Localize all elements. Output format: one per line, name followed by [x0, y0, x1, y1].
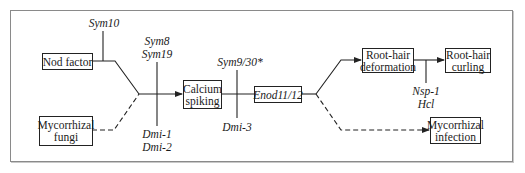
root-hair-curling-label-line2: curling — [452, 61, 485, 73]
sym10-gene-label: Sym10 — [89, 17, 120, 30]
dmi1-text: Dmi-1 — [142, 128, 171, 141]
nsp1-hcl-gene-label: Nsp-1 Hcl — [412, 85, 439, 111]
sym8-sym19-gene-label: Sym8 Sym19 — [142, 35, 173, 61]
calcium-spiking-label-line1: Calcium — [183, 83, 222, 95]
fungi-connector — [92, 94, 139, 130]
sym10-text: Sym10 — [89, 17, 120, 30]
dmi3-text: Dmi-3 — [222, 121, 251, 134]
enod-label: Enod11/12 — [253, 89, 303, 101]
mycorrhizal-fungi-label-line1: Mycorrhizal — [38, 119, 95, 131]
sym19-text: Sym19 — [142, 48, 173, 61]
mycorrhizal-fungi-node: Mycorrhizal fungi — [39, 116, 93, 146]
sym9-30-gene-label: Sym9/30* — [217, 56, 262, 69]
root-hair-deformation-label-line2: deformation — [360, 61, 416, 73]
dmi3-gene-label: Dmi-3 — [222, 121, 251, 134]
root-hair-curling-label-line1: Root-hair — [446, 49, 490, 61]
calcium-spiking-node: Calcium spiking — [183, 80, 222, 109]
branch-to-deformation-arrow — [316, 60, 361, 94]
root-hair-deformation-label-line1: Root-hair — [366, 49, 410, 61]
calcium-spiking-label-line2: spiking — [186, 95, 220, 107]
nod-factor-label: Nod factor — [43, 56, 93, 68]
sym8-text: Sym8 — [142, 35, 173, 48]
nsp1-text: Nsp-1 — [412, 85, 439, 98]
root-hair-deformation-node: Root-hair deformation — [362, 48, 414, 73]
root-hair-curling-node: Root-hair curling — [445, 48, 491, 73]
nod-factor-connector — [92, 61, 139, 94]
sym9-30-text: Sym9/30* — [217, 56, 262, 69]
mycorrhizal-fungi-label-line2: fungi — [54, 131, 78, 143]
mycorrhizal-infection-label-line1: Mycorrhizal — [427, 119, 484, 131]
dmi1-dmi2-gene-label: Dmi-1 Dmi-2 — [142, 128, 171, 154]
enod-node: Enod11/12 — [254, 86, 302, 103]
hcl-text: Hcl — [412, 98, 439, 111]
mycorrhizal-infection-label-line2: infection — [435, 131, 476, 143]
mycorrhizal-infection-node: Mycorrhizal infection — [430, 117, 481, 144]
dmi2-text: Dmi-2 — [142, 141, 171, 154]
nod-factor-node: Nod factor — [42, 53, 93, 70]
